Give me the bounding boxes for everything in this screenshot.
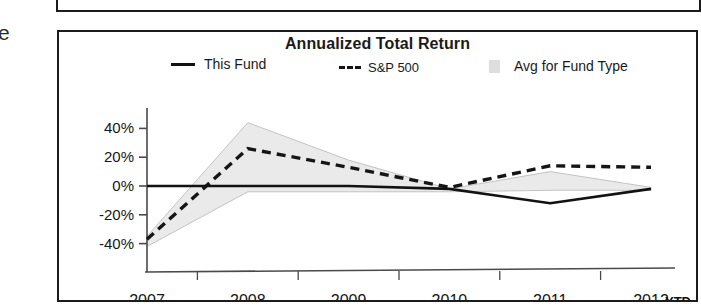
x-axis-tick-label: 2008 <box>230 292 266 300</box>
y-axis-tick-label: 20% <box>104 148 134 165</box>
legend-label-avg-for-fund-type: Avg for Fund Type <box>514 58 628 74</box>
chart-title: Annualized Total Return <box>59 35 696 53</box>
x-axis-tick-label: 2012 <box>633 292 669 300</box>
y-axis-tick-label: -20% <box>99 206 134 223</box>
x-axis-tick-label: 2009 <box>331 292 367 300</box>
return-line-chart-svg: 40%20%0%-20%-40% 20072008200920102011201… <box>59 80 700 300</box>
plot-area: 40%20%0%-20%-40% 20072008200920102011201… <box>59 80 700 300</box>
legend-label-sp500: S&P 500 <box>368 60 419 75</box>
ytd-annotation-label: YTD <box>665 294 691 300</box>
legend-label-this-fund: This Fund <box>204 56 266 72</box>
page-edge-text-fragment: e <box>0 22 10 43</box>
x-axis-tick-label: 2011 <box>533 292 568 300</box>
partial-box-above <box>56 0 701 12</box>
y-axis-tick-label: -40% <box>99 235 134 252</box>
legend-item-avg-for-fund-type: Avg for Fund Type <box>489 58 628 74</box>
y-axis-tick-labels: 40%20%0%-20%-40% <box>99 119 134 251</box>
legend-item-sp500: S&P 500 <box>339 60 419 75</box>
annualized-total-return-chart-panel: Annualized Total Return This Fund S&P 50… <box>57 30 698 302</box>
avg-fund-type-band-group <box>147 123 651 247</box>
x-axis-tick-label: 2007 <box>129 292 165 300</box>
x-axis-tick-labels: 200720082009201020112012YTD <box>129 292 691 300</box>
dashed-line-swatch-icon <box>339 66 361 69</box>
x-axis-tick-label: 2010 <box>432 292 468 300</box>
y-axis-tick-label: 40% <box>104 119 134 136</box>
gray-box-swatch-icon <box>489 60 500 73</box>
legend-item-this-fund: This Fund <box>171 56 266 72</box>
solid-line-swatch-icon <box>171 63 195 66</box>
y-axis-tick-label: 0% <box>112 177 134 194</box>
